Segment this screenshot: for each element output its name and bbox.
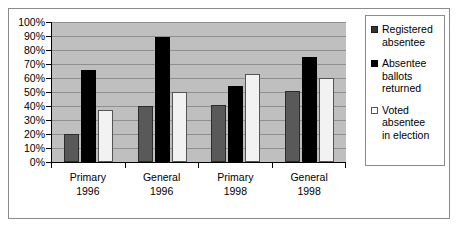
- category-tick: [272, 163, 273, 168]
- plot-area: [51, 22, 346, 163]
- legend-label: Votedabsenteein election: [382, 104, 429, 142]
- legend-swatch-icon: [371, 26, 378, 33]
- chart-frame: 100%90%80%70%60%50%40%30%20%10%0% Primar…: [8, 8, 450, 219]
- y-axis-tick-label: 60%: [9, 73, 45, 83]
- legend-label-line: Absentee: [382, 57, 426, 70]
- legend-label-line: Voted: [382, 104, 429, 117]
- bar-group: [126, 22, 200, 162]
- legend-label-line: absentee: [382, 116, 429, 129]
- legend-label-line: Registered: [382, 23, 433, 36]
- category-label: General1996: [125, 170, 199, 198]
- y-axis-tick-label: 10%: [9, 143, 45, 153]
- legend-label-line: ballots: [382, 70, 426, 83]
- legend-label-line: in election: [382, 129, 429, 142]
- category-label: Primary1996: [51, 170, 125, 198]
- y-axis-tick-label: 20%: [9, 129, 45, 139]
- bar[interactable]: [64, 134, 79, 162]
- category-tick: [51, 163, 52, 168]
- legend-label-line: absentee: [382, 36, 433, 49]
- category-label-line2: 1998: [272, 184, 346, 198]
- legend-label: Absenteeballotsreturned: [382, 57, 426, 95]
- y-axis-tick-label: 80%: [9, 45, 45, 55]
- legend-item[interactable]: Registeredabsentee: [371, 23, 440, 48]
- bar[interactable]: [172, 92, 187, 162]
- category-label-line2: 1996: [51, 184, 125, 198]
- bar[interactable]: [228, 86, 243, 162]
- category-label-line2: 1996: [125, 184, 199, 198]
- legend-label: Registeredabsentee: [382, 23, 433, 48]
- y-axis-tick-label: 30%: [9, 115, 45, 125]
- bar-group: [199, 22, 273, 162]
- legend-swatch-icon: [371, 107, 378, 114]
- bar[interactable]: [211, 105, 226, 162]
- y-axis-tick-label: 100%: [9, 17, 45, 27]
- bar[interactable]: [285, 91, 300, 162]
- legend-item[interactable]: Votedabsenteein election: [371, 104, 440, 142]
- category-axis-labels: Primary1996General1996Primary1998General…: [51, 170, 346, 198]
- category-label: Primary1998: [199, 170, 273, 198]
- legend-item[interactable]: Absenteeballotsreturned: [371, 57, 440, 95]
- category-label-line1: General: [143, 171, 180, 183]
- y-axis-tick-label: 70%: [9, 59, 45, 69]
- category-label-line1: Primary: [70, 171, 106, 183]
- category-label-line2: 1998: [199, 184, 273, 198]
- legend-label-line: returned: [382, 82, 426, 95]
- bar[interactable]: [155, 37, 170, 162]
- y-axis-tick-label: 0%: [9, 157, 45, 167]
- bars-layer: [52, 22, 346, 162]
- category-tick: [198, 163, 199, 168]
- legend-swatch-icon: [371, 60, 378, 67]
- y-axis-tick-label: 50%: [9, 87, 45, 97]
- category-axis-ticks: [51, 163, 346, 168]
- bar-group: [52, 22, 126, 162]
- category-label-line1: General: [290, 171, 327, 183]
- bar[interactable]: [81, 70, 96, 162]
- bar-group: [273, 22, 347, 162]
- category-label: General1998: [272, 170, 346, 198]
- plot-wrapper: 100%90%80%70%60%50%40%30%20%10%0% Primar…: [9, 9, 353, 218]
- category-tick: [345, 163, 346, 168]
- bar[interactable]: [98, 110, 113, 162]
- category-label-line1: Primary: [217, 171, 253, 183]
- chart-legend: RegisteredabsenteeAbsenteeballotsreturne…: [365, 15, 445, 166]
- bar[interactable]: [138, 106, 153, 162]
- category-tick: [125, 163, 126, 168]
- bar[interactable]: [302, 57, 317, 162]
- bar[interactable]: [245, 74, 260, 162]
- y-axis-labels: 100%90%80%70%60%50%40%30%20%10%0%: [9, 22, 45, 162]
- y-axis-tick-label: 40%: [9, 101, 45, 111]
- y-axis-tick-label: 90%: [9, 31, 45, 41]
- bar[interactable]: [319, 78, 334, 162]
